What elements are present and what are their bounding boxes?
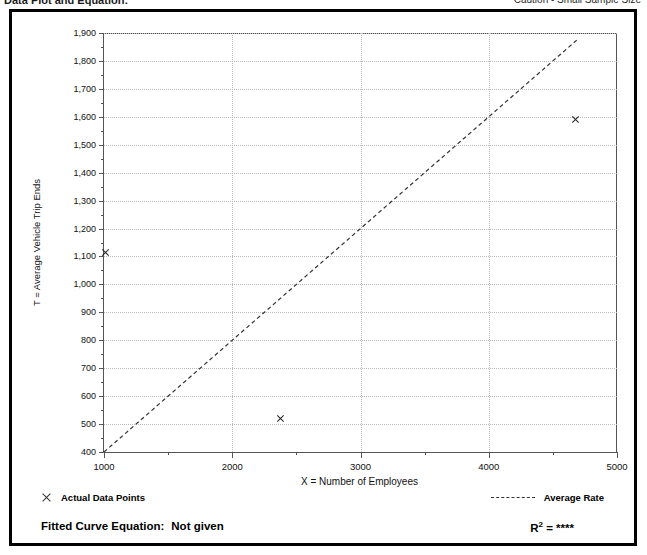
y-axis-tick	[99, 89, 104, 90]
y-axis-minor-tick	[101, 410, 104, 411]
x-axis-tick	[489, 452, 490, 458]
data-point-marker	[571, 115, 580, 124]
x-axis-title: X = Number of Employees	[103, 476, 616, 487]
chart-region: T = Average Vehicle Trip Ends 4005006007…	[12, 12, 634, 490]
y-axis-minor-tick	[101, 159, 104, 160]
x-axis-tick-label: 3000	[350, 461, 371, 472]
x-axis-tick	[361, 452, 362, 458]
y-axis-tick	[99, 256, 104, 257]
fitted-curve-value: Not given	[171, 520, 223, 532]
legend-item-actual-data-points: Actual Data Points	[41, 492, 145, 503]
r-squared-value: R2 = ****	[530, 520, 574, 534]
x-axis-minor-tick	[425, 452, 426, 455]
y-axis-minor-tick	[101, 215, 104, 216]
y-axis-tick-label: 500	[81, 419, 96, 429]
fitted-curve-equation: Fitted Curve Equation:Not given	[41, 520, 224, 532]
x-axis-tick-label: 2000	[222, 461, 243, 472]
y-axis-minor-tick	[101, 243, 104, 244]
legend-label-average-rate: Average Rate	[544, 492, 604, 503]
y-axis-tick	[99, 145, 104, 146]
y-axis-tick-label: 1,900	[73, 28, 96, 38]
figure-frame: T = Average Vehicle Trip Ends 4005006007…	[9, 9, 637, 546]
r-squared-label: R	[530, 522, 538, 534]
x-axis-minor-tick	[168, 452, 169, 455]
x-axis-tick-label: 4000	[478, 461, 499, 472]
y-axis-tick	[99, 229, 104, 230]
y-axis-tick-label: 1,500	[73, 140, 96, 150]
legend-item-average-rate: Average Rate	[491, 492, 604, 503]
y-axis-minor-tick	[101, 298, 104, 299]
y-axis-minor-tick	[101, 131, 104, 132]
y-axis-tick	[99, 117, 104, 118]
data-point-marker	[101, 248, 110, 257]
y-axis-minor-tick	[101, 270, 104, 271]
y-axis-minor-tick	[101, 187, 104, 188]
plot-inner	[104, 33, 617, 452]
legend-label-actual-data-points: Actual Data Points	[61, 492, 145, 503]
plot-area: 4005006007008009001,0001,1001,2001,3001,…	[103, 33, 617, 453]
sample-size-caution-caption: Caution - Small Sample Size	[514, 0, 641, 5]
y-axis-minor-tick	[101, 103, 104, 104]
y-axis-title: T = Average Vehicle Trip Ends	[30, 33, 44, 452]
r-squared-exponent: 2	[539, 520, 543, 529]
top-caption-strip: Data Plot and Equation: Caution - Small …	[0, 0, 647, 9]
chart-legend: Actual Data Points Average Rate	[12, 490, 634, 518]
x-axis-minor-tick	[296, 452, 297, 455]
y-axis-tick-label: 1,700	[73, 84, 96, 94]
x-axis-minor-tick	[553, 452, 554, 455]
y-axis-tick-label: 1,300	[73, 196, 96, 206]
y-axis-tick-label: 1,600	[73, 112, 96, 122]
y-axis-tick	[99, 201, 104, 202]
x-marker-icon	[41, 492, 52, 503]
equation-row: Fitted Curve Equation:Not given R2 = ***…	[12, 518, 634, 543]
y-axis-tick	[99, 284, 104, 285]
y-axis-minor-tick	[101, 354, 104, 355]
y-axis-tick-label: 400	[81, 447, 96, 457]
gridline-vertical	[489, 33, 490, 452]
plot-right-edge	[616, 33, 617, 452]
y-axis-tick-label: 1,100	[73, 251, 96, 261]
y-axis-minor-tick	[101, 382, 104, 383]
y-axis-tick-label: 900	[81, 307, 96, 317]
y-axis-tick-label: 800	[81, 335, 96, 345]
x-axis-tick	[617, 452, 618, 458]
y-axis-minor-tick	[101, 438, 104, 439]
y-axis-minor-tick	[101, 47, 104, 48]
gridline-vertical	[232, 33, 233, 452]
y-axis-minor-tick	[101, 75, 104, 76]
y-axis-tick	[99, 61, 104, 62]
y-axis-tick	[99, 396, 104, 397]
r-squared-equals: =	[546, 522, 553, 534]
x-axis-tick-label: 5000	[606, 461, 627, 472]
y-axis-tick	[99, 368, 104, 369]
y-axis-minor-tick	[101, 326, 104, 327]
data-plot-caption: Data Plot and Equation:	[4, 0, 128, 6]
y-axis-tick-label: 1,200	[73, 224, 96, 234]
y-axis-tick-label: 700	[81, 363, 96, 373]
y-axis-tick	[99, 424, 104, 425]
y-axis-tick	[99, 340, 104, 341]
data-point-marker	[276, 414, 285, 423]
r-squared-stars: ****	[556, 522, 574, 534]
y-axis-tick	[99, 173, 104, 174]
x-axis-tick-label: 1000	[93, 461, 114, 472]
y-axis-tick	[99, 33, 104, 34]
y-axis-tick-label: 600	[81, 391, 96, 401]
gridline-vertical	[361, 33, 362, 452]
x-axis-tick	[104, 452, 105, 458]
x-axis-tick	[232, 452, 233, 458]
fitted-curve-label: Fitted Curve Equation:	[41, 520, 164, 532]
y-axis-tick-label: 1,000	[73, 279, 96, 289]
dashed-line-icon	[491, 497, 535, 498]
y-axis-tick-label: 1,800	[73, 56, 96, 66]
y-axis-tick	[99, 312, 104, 313]
y-axis-tick-label: 1,400	[73, 168, 96, 178]
